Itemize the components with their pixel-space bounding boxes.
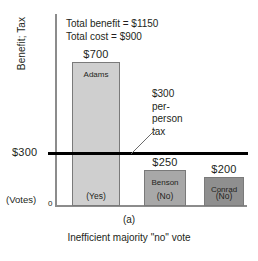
- origin-zero-label: 0: [48, 199, 52, 208]
- leader-line-icon: [130, 129, 156, 155]
- bar-value-benson: $250: [141, 156, 189, 168]
- bar-value-adams: $700: [72, 48, 120, 60]
- caption-text: Inefficient majority "no" vote: [0, 232, 258, 243]
- bar-conrad: Conrad (No): [204, 177, 244, 206]
- bar-label-adams: Adams: [73, 70, 119, 79]
- bar-vote-benson: (No): [145, 191, 185, 201]
- bar-adams: Adams (Yes): [72, 62, 120, 206]
- caption-panel-letter: (a): [0, 214, 258, 225]
- figure-panel-a: Benefit; Tax Total benefit = $1150 Total…: [0, 0, 258, 261]
- y-axis-label: Benefit; Tax: [16, 4, 27, 84]
- tax-annotation-line2: per-: [152, 101, 183, 114]
- bar-benson: Benson (No): [144, 170, 186, 206]
- bar-vote-conrad: (No): [205, 191, 243, 201]
- y-tick-label-300: $300: [12, 146, 37, 158]
- tax-annotation-line1: $300: [152, 88, 183, 101]
- total-cost-text: Total cost = $900: [66, 30, 158, 43]
- bar-label-benson: Benson: [145, 178, 185, 187]
- tax-annotation: $300 per- person tax: [152, 88, 183, 138]
- bar-vote-adams: (Yes): [73, 191, 119, 201]
- totals-note: Total benefit = $1150 Total cost = $900: [66, 17, 158, 43]
- bar-value-conrad: $200: [200, 163, 248, 175]
- y-axis-line: [55, 14, 57, 206]
- total-benefit-text: Total benefit = $1150: [66, 17, 158, 30]
- origin-votes-label: (Votes): [6, 194, 36, 205]
- tax-annotation-line4: tax: [152, 126, 183, 139]
- tax-annotation-line3: person: [152, 113, 183, 126]
